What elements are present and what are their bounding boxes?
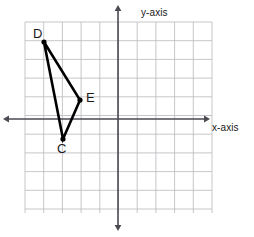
vertex-label-e: E bbox=[86, 90, 95, 105]
coordinate-plane-figure: y-axis x-axis D E C bbox=[0, 0, 254, 237]
vertex-label-c: C bbox=[57, 141, 66, 156]
y-axis-arrow-down-icon bbox=[115, 225, 122, 231]
vertex-point-e bbox=[77, 97, 82, 102]
y-axis-arrow-up-icon bbox=[115, 5, 122, 11]
x-axis-arrow-left-icon bbox=[3, 116, 9, 123]
x-axis-label: x-axis bbox=[212, 122, 239, 133]
x-axis-arrow-right-icon bbox=[204, 116, 210, 123]
vertex-label-d: D bbox=[33, 26, 42, 41]
y-axis-label: y-axis bbox=[141, 7, 168, 18]
